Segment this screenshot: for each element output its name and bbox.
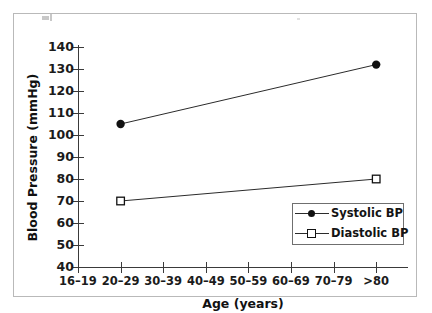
data-point-marker [372, 175, 380, 183]
legend-entry-systolic: Systolic BP [293, 204, 403, 224]
x-axis-title: Age (years) [78, 296, 408, 311]
legend-entry-diastolic: Diastolic BP [293, 224, 403, 244]
data-point-marker [116, 120, 124, 128]
data-point-marker [372, 60, 380, 68]
legend: Systolic BP Diastolic BP [292, 203, 404, 245]
systolic-marker-icon [293, 204, 331, 224]
series-layer [14, 14, 418, 298]
legend-label-diastolic: Diastolic BP [331, 228, 408, 240]
series-line [121, 179, 377, 201]
figure-frame: 405060708090100110120130140 16–1920–2930… [13, 13, 417, 297]
plot-area: 405060708090100110120130140 16–1920–2930… [14, 14, 416, 296]
diastolic-marker-icon [293, 224, 331, 244]
legend-label-systolic: Systolic BP [331, 208, 403, 220]
data-point-marker [117, 197, 125, 205]
series-line [121, 65, 377, 124]
